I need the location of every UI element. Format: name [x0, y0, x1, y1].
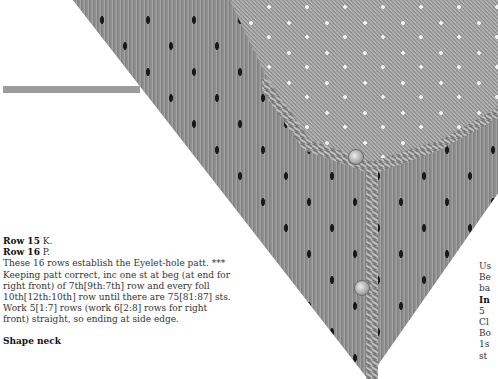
shape-neck-heading: Shape neck	[3, 336, 233, 347]
instruction-paragraph: These 16 rows establish the Eyelet-hole …	[3, 258, 233, 325]
right-line: 1s	[479, 339, 498, 350]
row-15-label: Row 15	[3, 236, 40, 246]
row-16-line: Row 16 P.	[3, 247, 233, 258]
right-line: Be	[479, 272, 498, 283]
right-bold-line: In	[479, 295, 498, 306]
row-16-text: P.	[40, 247, 50, 257]
right-line: ba	[479, 283, 498, 294]
right-line: 5	[479, 306, 498, 317]
cardigan-button-top	[348, 149, 364, 165]
right-line: Us	[479, 261, 498, 272]
row-16-label: Row 16	[3, 247, 40, 257]
row-15-text: K.	[40, 236, 52, 246]
pattern-instructions-right: Us Be ba In 5 Cl Bo 1s st	[479, 261, 498, 362]
cardigan-button-bottom	[354, 280, 370, 296]
row-15-line: Row 15 K.	[3, 236, 233, 247]
pattern-instructions-left: Row 15 K. Row 16 P. These 16 rows establ…	[3, 236, 233, 347]
right-line: st	[479, 351, 498, 362]
right-line: Bo	[479, 328, 498, 339]
right-line: Cl	[479, 317, 498, 328]
decorative-rule	[3, 86, 140, 93]
